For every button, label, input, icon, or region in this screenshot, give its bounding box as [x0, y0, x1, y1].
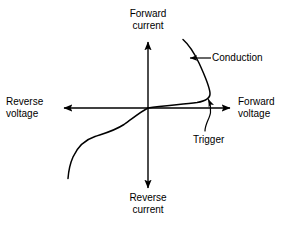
axis-label-forward-voltage: Forward voltage: [238, 96, 292, 120]
reverse-characteristic-curve: [68, 108, 148, 179]
iv-characteristic-figure: Forward current Reverse current Reverse …: [0, 0, 292, 233]
annotation-label-conduction: Conduction: [212, 52, 288, 64]
trigger-leader-arrow: [205, 100, 211, 132]
axis-label-forward-current: Forward current: [108, 8, 188, 32]
annotation-label-trigger: Trigger: [193, 134, 243, 146]
axis-label-reverse-voltage: Reverse voltage: [6, 96, 60, 120]
forward-characteristic-curve: [148, 40, 210, 109]
axis-label-reverse-current: Reverse current: [108, 192, 188, 216]
